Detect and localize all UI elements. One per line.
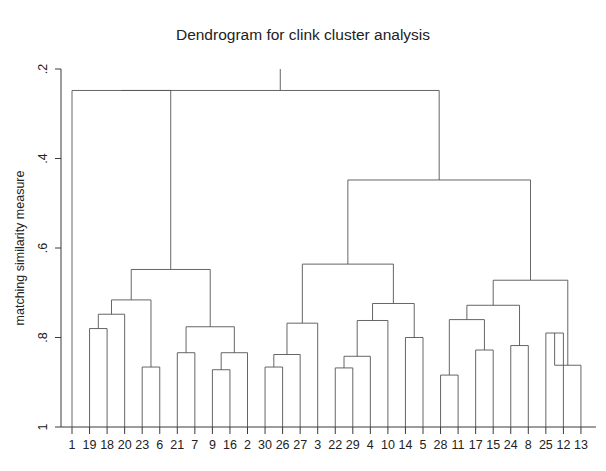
leaf-label: 4 bbox=[367, 438, 374, 452]
leaf-label: 28 bbox=[434, 438, 448, 452]
y-axis-label: matching similarity measure bbox=[13, 171, 27, 326]
dendrogram-link bbox=[493, 280, 568, 365]
leaf-label: 24 bbox=[504, 438, 518, 452]
leaf-label: 8 bbox=[525, 438, 532, 452]
leaf-label: 1 bbox=[69, 438, 76, 452]
leaf-label: 25 bbox=[539, 438, 553, 452]
dendrogram-link bbox=[90, 329, 108, 427]
leaf-label: 15 bbox=[486, 438, 500, 452]
dendrogram-link bbox=[131, 269, 210, 326]
x-axis: 1191820236217916230262732229410145281117… bbox=[61, 427, 596, 452]
dendrogram-link bbox=[441, 375, 459, 427]
y-tick-label: .2 bbox=[36, 64, 50, 74]
leaf-label: 10 bbox=[381, 438, 395, 452]
dendrogram-link bbox=[511, 346, 529, 427]
leaf-label: 9 bbox=[209, 438, 216, 452]
dendrogram-link bbox=[449, 320, 484, 375]
y-axis: .2.4.6.81 bbox=[36, 64, 61, 431]
dendrogram-link bbox=[142, 367, 160, 427]
dendrogram-link bbox=[186, 327, 234, 353]
y-tick-label: .8 bbox=[36, 332, 50, 342]
leaf-label: 27 bbox=[293, 438, 307, 452]
leaf-label: 21 bbox=[170, 438, 184, 452]
leaf-label: 19 bbox=[83, 438, 97, 452]
leaf-label: 23 bbox=[135, 438, 149, 452]
dendrogram-link bbox=[467, 305, 520, 345]
leaf-label: 16 bbox=[223, 438, 237, 452]
leaf-label: 18 bbox=[100, 438, 114, 452]
y-tick-label: .4 bbox=[36, 153, 50, 163]
dendrogram-link bbox=[405, 338, 423, 428]
dendrogram-links bbox=[72, 69, 581, 427]
dendrogram-plot: Dendrogram for clink cluster analysis ma… bbox=[0, 0, 606, 471]
dendrogram-link bbox=[357, 320, 388, 427]
dendrogram-link bbox=[302, 264, 393, 323]
leaf-label: 6 bbox=[156, 438, 163, 452]
leaf-label: 5 bbox=[420, 438, 427, 452]
leaf-label: 7 bbox=[191, 438, 198, 452]
leaf-label: 20 bbox=[118, 438, 132, 452]
dendrogram-link bbox=[177, 353, 195, 427]
leaf-label: 13 bbox=[574, 438, 588, 452]
leaf-label: 11 bbox=[452, 438, 465, 452]
leaf-label: 22 bbox=[328, 438, 342, 452]
dendrogram-link bbox=[344, 356, 370, 427]
dendrogram-link bbox=[274, 355, 300, 427]
dendrogram-link bbox=[287, 323, 318, 427]
y-tick-label: .6 bbox=[36, 243, 50, 253]
dendrogram-figure: Dendrogram for clink cluster analysis ma… bbox=[0, 0, 606, 471]
dendrogram-link bbox=[335, 368, 353, 427]
leaf-label: 3 bbox=[314, 438, 321, 452]
dendrogram-link bbox=[212, 370, 230, 427]
leaf-label: 26 bbox=[276, 438, 290, 452]
page-title: Dendrogram for clink cluster analysis bbox=[176, 26, 430, 43]
dendrogram-link bbox=[111, 300, 150, 367]
dendrogram-link bbox=[348, 180, 531, 280]
y-tick-group: .2.4.6.81 bbox=[36, 64, 61, 431]
dendrogram-link bbox=[265, 367, 283, 427]
leaf-label: 29 bbox=[346, 438, 360, 452]
leaf-label: 14 bbox=[398, 438, 412, 452]
leaf-label: 12 bbox=[556, 438, 570, 452]
dendrogram-link bbox=[72, 90, 171, 427]
x-tick-group: 1191820236217916230262732229410145281117… bbox=[69, 427, 588, 452]
dendrogram-link bbox=[221, 353, 247, 427]
leaf-label: 2 bbox=[244, 438, 251, 452]
dendrogram-link bbox=[476, 350, 494, 427]
leaf-label: 17 bbox=[469, 438, 483, 452]
y-tick-label: 1 bbox=[36, 423, 50, 430]
leaf-label: 30 bbox=[258, 438, 272, 452]
dendrogram-link bbox=[98, 314, 124, 427]
dendrogram-link bbox=[121, 90, 439, 179]
